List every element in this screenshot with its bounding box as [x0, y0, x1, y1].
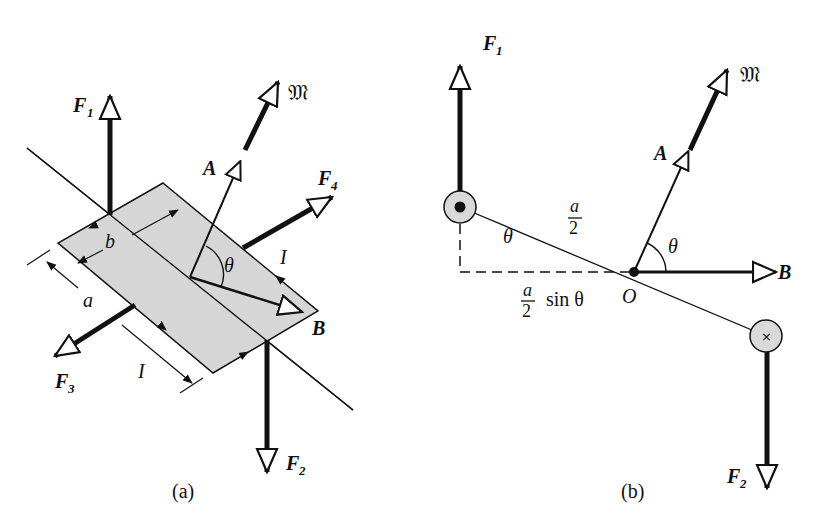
- label-M-b: 𝔐: [740, 62, 760, 87]
- label-theta: θ: [224, 254, 234, 276]
- label-f4: F: [317, 167, 332, 189]
- label-f4-sub: 4: [330, 178, 338, 193]
- label-B-b: B: [777, 261, 791, 283]
- label-current-bottom: I: [137, 360, 146, 382]
- label-A: A: [201, 157, 216, 179]
- current-out-dot-icon: [455, 202, 466, 213]
- label-O: O: [622, 285, 636, 307]
- a-dim-tick-top: [27, 250, 50, 265]
- magnetic-moment-vector-b: [690, 70, 727, 150]
- label-f1-sub: 1: [87, 105, 94, 120]
- angle-theta-arc-b: [647, 243, 666, 272]
- panel-b: F 1 F 2 × B A 𝔐 O θ θ a 2 a: [444, 32, 791, 503]
- label-M: 𝔐: [288, 80, 308, 105]
- projection-dashed-line: [460, 224, 630, 272]
- label-current-top: I: [279, 246, 288, 268]
- caption-a: (a): [172, 480, 194, 503]
- label-f2: F: [285, 452, 300, 474]
- label-f1: F: [72, 94, 87, 116]
- label-b: b: [105, 230, 115, 252]
- magnetic-moment-vector: [245, 82, 278, 150]
- label-B: B: [311, 317, 325, 339]
- label-A-b: A: [652, 142, 667, 164]
- label-theta-right: θ: [668, 235, 678, 257]
- label-f3-sub: 3: [67, 381, 75, 396]
- label-proj-num: a: [523, 280, 532, 300]
- label-half-a-num: a: [570, 196, 579, 216]
- label-a: a: [83, 289, 93, 311]
- rotation-axis-overlay: [27, 148, 353, 410]
- label-f2-b: F: [726, 465, 741, 487]
- label-f1-b: F: [482, 32, 497, 54]
- pivot-point-o: [629, 267, 639, 277]
- label-f2-sub-b: 2: [739, 476, 747, 491]
- force-f3-arrow: [55, 305, 135, 356]
- label-proj-den: 2: [522, 301, 531, 321]
- caption-b: (b): [621, 480, 644, 503]
- a-dim-tick-bottom: [180, 378, 203, 393]
- label-f3: F: [54, 370, 69, 392]
- a-dim-line-upper: [47, 262, 78, 288]
- force-f4-arrow: [243, 197, 332, 248]
- label-f1-sub-b: 1: [496, 43, 503, 58]
- torque-on-current-loop-figure: b a F 1 F 2 F 3 F 4 A 𝔐 B θ: [0, 0, 819, 524]
- panel-a: b a F 1 F 2 F 3 F 4 A 𝔐 B θ: [27, 80, 353, 503]
- current-in-cross-icon: ×: [761, 329, 772, 344]
- label-theta-left: θ: [503, 225, 513, 247]
- label-half-a-den: 2: [569, 218, 578, 238]
- label-proj-sin: sin θ: [546, 288, 584, 310]
- label-f2-sub: 2: [298, 463, 306, 478]
